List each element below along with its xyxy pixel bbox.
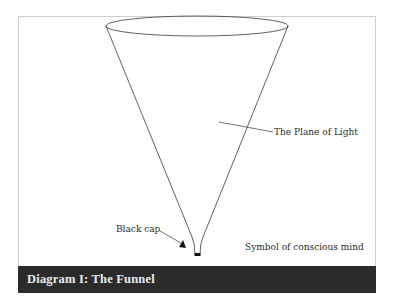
arrow-head-icon xyxy=(179,240,186,248)
label-symbol: Symbol of conscious mind xyxy=(245,242,364,252)
black-cap xyxy=(195,253,201,256)
diagram-caption: Diagram I: The Funnel xyxy=(27,272,155,287)
funnel-right-side xyxy=(200,26,288,254)
funnel-rim xyxy=(106,16,288,36)
funnel-left-side xyxy=(106,26,195,254)
label-black-cap: Black cap xyxy=(116,224,160,234)
black-cap-leader xyxy=(160,231,181,243)
funnel-diagram xyxy=(0,0,395,306)
label-plane-of-light: The Plane of Light xyxy=(274,127,358,137)
caption-bar: Diagram I: The Funnel xyxy=(18,266,376,293)
